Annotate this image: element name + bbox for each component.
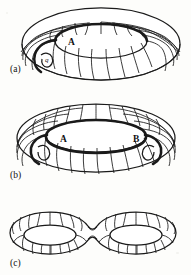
panel-a-torus: A q (a) <box>0 0 191 90</box>
scan-speck <box>176 252 179 254</box>
panel-b-torus: A B (b) <box>0 90 191 185</box>
panel-tag-a: (a) <box>10 64 21 75</box>
double-torus-right-hole <box>110 225 162 245</box>
label-b-region-A: A <box>60 134 67 144</box>
panel-tag-c: (c) <box>10 258 21 269</box>
panel-tag-b: (b) <box>10 170 21 181</box>
scan-speck <box>6 12 8 14</box>
label-b-region-B: B <box>133 134 140 144</box>
double-torus-left-hole <box>24 225 76 245</box>
label-a-region-A: A <box>68 37 75 47</box>
label-a-loop-q: q <box>45 56 49 64</box>
figure-root: A q (a) <box>0 0 191 275</box>
panel-c-double-torus: (c) <box>0 182 191 275</box>
